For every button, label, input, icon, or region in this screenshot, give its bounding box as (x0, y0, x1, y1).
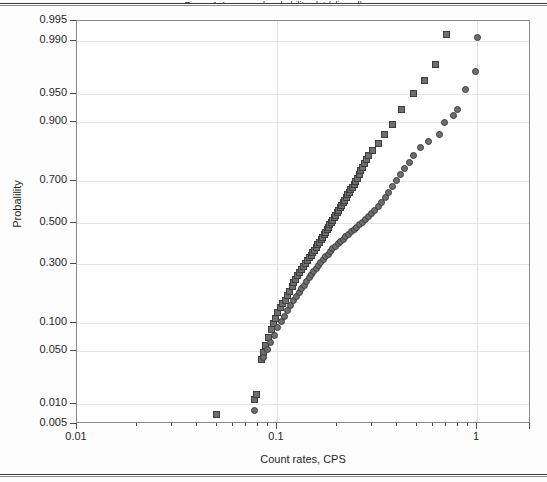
data-point (389, 183, 396, 190)
data-point (421, 77, 428, 84)
x-axis-minor-tick (216, 423, 217, 426)
y-axis-tick-label: 0.995 (5, 14, 67, 25)
y-axis-tick-label: 0.300 (5, 257, 67, 268)
x-axis-minor-tick (136, 423, 137, 426)
x-axis-minor-tick (171, 423, 172, 426)
x-axis-minor-tick (396, 423, 397, 426)
x-axis-minor-tick (267, 423, 268, 426)
data-point (417, 144, 424, 151)
data-point (410, 90, 417, 97)
grid-line-horizontal (77, 404, 530, 405)
grid-line-vertical (477, 21, 478, 423)
y-axis-tick-label: 0.700 (5, 174, 67, 185)
data-point (398, 106, 405, 113)
x-axis-tick-label: 0.01 (46, 430, 106, 443)
x-axis-minor-tick (245, 423, 246, 426)
x-axis-minor-tick (432, 423, 433, 426)
x-axis-major-tick (276, 423, 277, 429)
data-point (267, 339, 274, 346)
x-axis-minor-tick (416, 423, 417, 426)
x-axis-tick-label: 0.1 (246, 430, 306, 443)
x-axis-title: Count rates, CPS (76, 453, 530, 465)
x-axis-minor-tick (196, 423, 197, 426)
data-point (381, 131, 388, 138)
x-axis-minor-tick (232, 423, 233, 426)
data-point (462, 86, 469, 93)
data-point (253, 391, 260, 398)
data-point (406, 159, 413, 166)
data-point (369, 147, 376, 154)
data-point (260, 354, 267, 361)
data-point (436, 131, 443, 138)
y-axis-title: Probalility (11, 154, 23, 254)
page-top-rule-2 (0, 5, 547, 6)
x-axis-minor-tick (467, 423, 468, 426)
y-axis-tick-label: 0.005 (5, 417, 67, 428)
grid-line-vertical (277, 21, 278, 423)
x-axis-minor-tick (336, 423, 337, 426)
x-axis-minor-tick (457, 423, 458, 426)
data-point (385, 189, 392, 196)
data-point (432, 61, 439, 68)
y-axis-tick-label: 0.010 (5, 397, 67, 408)
grid-line-horizontal (77, 223, 530, 224)
data-point (251, 407, 258, 414)
grid-line-horizontal (77, 181, 530, 182)
data-point (375, 140, 382, 147)
clipped-caption: Figure 1. Lognormal probability plot (cl… (0, 0, 547, 3)
plot-area (76, 20, 530, 423)
data-point (425, 138, 432, 145)
data-point (397, 171, 404, 178)
data-point (441, 119, 448, 126)
grid-line-horizontal (77, 351, 530, 352)
data-point (410, 152, 417, 159)
data-point (474, 34, 481, 41)
y-axis-tick-label: 0.900 (5, 115, 67, 126)
x-axis-minor-tick (445, 423, 446, 426)
page-bottom-rule-2 (0, 476, 547, 477)
x-axis-minor-tick (371, 423, 372, 426)
data-point (389, 121, 396, 128)
grid-line-horizontal (77, 122, 530, 123)
x-axis-tick-label: 1 (446, 430, 506, 443)
y-axis-tick-label: 0.500 (5, 216, 67, 227)
x-axis-major-tick (76, 423, 77, 429)
data-point (472, 68, 479, 75)
data-point (271, 332, 278, 339)
data-point (213, 411, 220, 418)
data-point (401, 165, 408, 172)
grid-line-horizontal (77, 323, 530, 324)
y-axis-tick-label: 0.050 (5, 344, 67, 355)
y-axis-tick-label: 0.950 (5, 87, 67, 98)
x-axis-major-tick (476, 423, 477, 429)
data-point (443, 31, 450, 38)
y-axis-tick-label: 0.100 (5, 316, 67, 327)
figure-container: Figure 1. Lognormal probability plot (cl… (0, 0, 547, 482)
data-point (454, 106, 461, 113)
page-top-rule (0, 3, 547, 4)
x-axis-minor-tick (257, 423, 258, 426)
grid-line-horizontal (77, 94, 530, 95)
page-bottom-rule (0, 474, 547, 475)
grid-line-horizontal (77, 41, 530, 42)
y-axis-tick-label: 0.990 (5, 34, 67, 45)
x-axis-end-tick (529, 423, 530, 429)
